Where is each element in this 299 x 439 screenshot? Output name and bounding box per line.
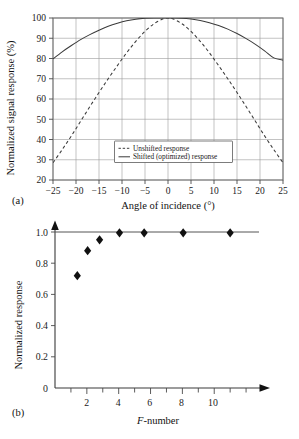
chart-a-xticklabel: 10 [209,186,219,196]
chart-b-xticklabel: 10 [208,397,218,408]
chart-a-x-ticks [53,180,283,184]
chart-a-yticklabel: 90 [37,34,47,44]
chart-a-yticklabel: 50 [37,115,47,125]
figure-container: Normalized signal response (%) [0,0,299,439]
data-point-marker [84,246,91,255]
data-point-marker [141,228,148,237]
chart-b-yticklabel: 0.4 [36,320,48,331]
chart-b-xticklabel: 4 [116,397,121,408]
chart-a-ylabel: Normalized signal response (%) [5,40,17,176]
chart-b-yticklabel: 0.6 [36,289,48,300]
chart-panel-b: Normalized response 1.0 0.8 0.6 0.4 [0,220,299,439]
data-point-marker [227,228,234,237]
chart-a-xticklabel: 25 [278,186,288,196]
chart-b-ylabel: Normalized response [13,280,24,369]
chart-a-xticklabel: −20 [69,186,84,196]
chart-b-xlabel-rest: -number [143,415,179,426]
chart-b-xlabel: F-number [136,415,179,426]
chart-a-legend: Unshifted response Shifted (optimized) r… [115,141,233,163]
chart-a-yticklabel: 40 [37,135,47,145]
chart-b-data-markers [74,228,234,280]
chart-b-yticklabel: 0 [43,383,48,394]
legend-label-shifted: Shifted (optimized) response [133,152,217,161]
y-axis-arrow-icon [51,221,59,231]
chart-a-xticklabel: 5 [189,186,194,196]
chart-b-xticklabel: 2 [84,397,89,408]
chart-a-xticklabel: −10 [115,186,130,196]
chart-b-x-ticks [71,388,246,394]
chart-b-yticklabel: 0.8 [36,258,48,269]
chart-a-xticklabel: −15 [92,186,107,196]
chart-b-yticklabel: 1.0 [36,227,48,238]
chart-b-yticklabel: 0.2 [36,351,48,362]
chart-panel-a: Normalized signal response (%) [0,0,299,220]
chart-b-xticklabel: 8 [179,397,184,408]
chart-a-xticklabel: −25 [46,186,61,196]
chart-a-xticklabel: 0 [166,186,171,196]
chart-a-yticklabel: 60 [37,94,47,104]
data-point-marker [116,228,123,237]
chart-a-xticklabel: 15 [232,186,242,196]
chart-b-svg: Normalized response 1.0 0.8 0.6 0.4 [0,220,299,439]
panel-b-tag: (b) [12,407,25,419]
chart-a-yticklabel: 100 [32,13,47,23]
chart-a-xticklabel: −5 [140,186,150,196]
chart-a-x-ticklabels: −25 −20 −15 −10 −5 0 5 10 15 20 25 [46,186,288,196]
chart-a-xticklabel: 20 [255,186,265,196]
chart-a-yticklabel: 20 [37,175,47,185]
chart-a-xlabel: Angle of incidence (°) [121,200,215,212]
chart-b-y-ticks [51,232,55,357]
chart-b-x-ticklabels: 2 4 6 8 10 [84,397,218,408]
data-point-marker [96,235,103,244]
x-axis-arrow-icon [260,384,271,392]
chart-b-xticklabel: 6 [147,397,152,408]
data-point-marker [74,271,81,280]
chart-a-yticklabel: 70 [37,74,47,84]
chart-a-yticklabel: 80 [37,54,47,64]
chart-a-yticklabel: 30 [37,155,47,165]
panel-a-tag: (a) [12,195,24,207]
chart-b-y-ticklabels: 1.0 0.8 0.6 0.4 0.2 0 [36,227,48,394]
data-point-marker [180,228,187,237]
chart-a-svg: Normalized signal response (%) [0,0,299,220]
chart-a-y-ticks [49,18,53,180]
chart-a-y-ticklabels: 100 90 80 70 60 50 40 30 20 [32,13,47,185]
